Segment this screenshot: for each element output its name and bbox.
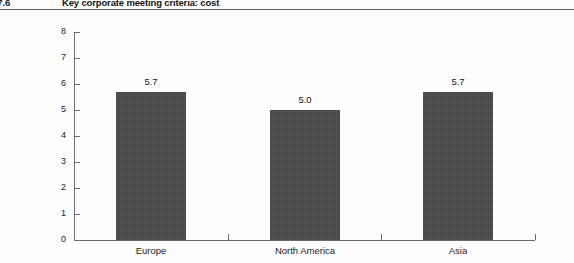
y-axis-tick-label: 6	[40, 78, 66, 88]
y-axis-tick-label: 1	[40, 208, 66, 218]
x-axis-line	[74, 240, 535, 241]
y-axis-tick-label: 2	[40, 182, 66, 192]
y-axis-tick-mark	[75, 84, 80, 85]
y-axis-tick-mark	[75, 58, 80, 59]
y-axis-tick-mark	[75, 162, 80, 163]
y-axis-tick-mark	[75, 188, 80, 189]
x-axis-tick-mark	[381, 234, 382, 240]
y-axis-tick-label: 4	[40, 130, 66, 140]
bar	[116, 92, 186, 240]
x-axis-tick-mark	[228, 234, 229, 240]
y-axis-tick-mark	[75, 214, 80, 215]
y-axis-tick-mark	[75, 136, 80, 137]
y-axis-tick-mark	[75, 240, 80, 241]
y-axis-tick-label: 3	[40, 156, 66, 166]
bar-value-label: 5.0	[275, 94, 335, 105]
y-axis-tick-label: 8	[40, 26, 66, 36]
x-axis-category-label: Asia	[398, 245, 518, 256]
bar-value-label: 5.7	[428, 76, 488, 87]
y-axis-tick-mark	[75, 32, 80, 33]
x-axis-category-label: North America	[245, 245, 365, 256]
y-axis-tick-label: 0	[40, 234, 66, 244]
bar	[270, 110, 340, 240]
bar-value-label: 5.7	[121, 76, 181, 87]
bar	[423, 92, 493, 240]
x-axis-category-label: Europe	[91, 245, 211, 256]
bar-chart: 012345678 5.75.05.7 EuropeNorth AmericaA…	[0, 0, 574, 263]
y-axis-tick-label: 7	[40, 52, 66, 62]
y-axis-tick-label: 5	[40, 104, 66, 114]
y-axis-tick-mark	[75, 110, 80, 111]
x-axis-tick-mark	[535, 234, 536, 240]
